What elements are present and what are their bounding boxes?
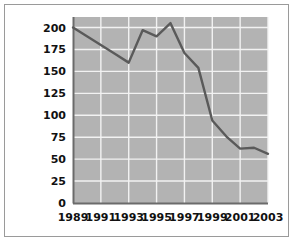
y-axis-tick-labels: 0255075100125150175200 [43, 22, 66, 210]
x-axis-tick-labels: 19891991199319951997199920012003 [58, 211, 284, 224]
x-tick-label: 1993 [113, 211, 144, 224]
y-tick-label: 125 [43, 87, 66, 100]
x-tick-label: 2003 [253, 211, 284, 224]
x-tick-label: 1997 [169, 211, 200, 224]
y-tick-label: 0 [58, 197, 66, 210]
x-tick-label: 2001 [225, 211, 256, 224]
x-tick-label: 1999 [197, 211, 228, 224]
y-tick-label: 50 [51, 153, 67, 166]
y-tick-label: 25 [51, 175, 66, 188]
y-tick-label: 175 [43, 43, 66, 56]
chart-figure: 0255075100125150175200 19891991199319951… [0, 0, 293, 241]
x-tick-label: 1995 [141, 211, 172, 224]
x-tick-label: 1989 [58, 211, 89, 224]
line-chart: 0255075100125150175200 19891991199319951… [0, 0, 293, 241]
y-tick-label: 150 [43, 65, 66, 78]
y-tick-label: 75 [51, 131, 66, 144]
y-tick-label: 200 [43, 22, 66, 35]
x-tick-label: 1991 [86, 211, 117, 224]
y-tick-label: 100 [43, 109, 66, 122]
